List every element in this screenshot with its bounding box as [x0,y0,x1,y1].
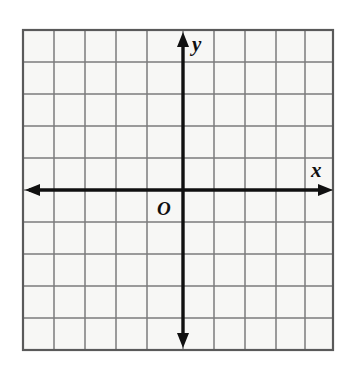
x-axis-label: x [310,158,322,182]
figure-canvas: y x O [0,0,349,370]
origin-label: O [157,198,171,219]
coordinate-plane-figure: y x O [0,0,349,370]
